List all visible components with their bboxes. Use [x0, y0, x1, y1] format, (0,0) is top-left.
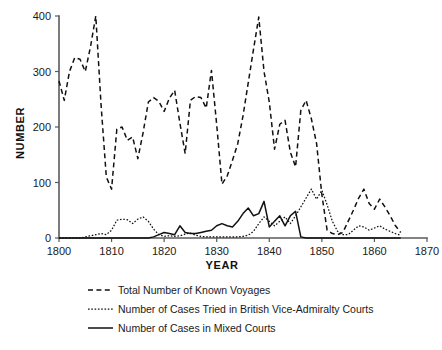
- legend-item: Number of Cases Tried in British Vice-Ad…: [88, 303, 373, 315]
- y-tick-label: 100: [33, 177, 51, 189]
- x-tick-label: 1810: [99, 245, 123, 257]
- chart-legend: Total Number of Known VoyagesNumber of C…: [88, 284, 373, 334]
- legend-label-1: Total Number of Known Voyages: [118, 284, 270, 296]
- y-tick-label: 400: [33, 10, 51, 22]
- y-tick-label: 300: [33, 66, 51, 78]
- x-axis-group: 18001810182018301840185018601870: [47, 238, 439, 257]
- x-tick-label: 1800: [47, 245, 71, 257]
- x-tick-label: 1840: [257, 245, 281, 257]
- legend-label-2: Number of Cases Tried in British Vice-Ad…: [118, 303, 373, 315]
- y-axis-title: NUMBER: [14, 107, 26, 159]
- series-line-2: [59, 189, 401, 238]
- x-tick-label: 1850: [310, 245, 334, 257]
- series-lines-group: [59, 16, 401, 238]
- chart-figure: 0100200300400 18001810182018301840185018…: [0, 0, 442, 350]
- legend-label-3: Number of Cases in Mixed Courts: [118, 322, 276, 334]
- y-tick-label: 200: [33, 121, 51, 133]
- legend-item: Number of Cases in Mixed Courts: [88, 322, 276, 334]
- x-tick-label: 1830: [204, 245, 228, 257]
- y-tick-label: 0: [45, 232, 51, 244]
- line-chart-svg: 0100200300400 18001810182018301840185018…: [0, 0, 442, 350]
- x-axis-ticks: 18001810182018301840185018601870: [47, 238, 439, 257]
- x-tick-label: 1860: [362, 245, 386, 257]
- series-line-1: [59, 16, 401, 235]
- legend-item: Total Number of Known Voyages: [88, 284, 270, 296]
- y-axis-group: 0100200300400: [33, 10, 59, 244]
- x-tick-label: 1820: [152, 245, 176, 257]
- y-axis-ticks: 0100200300400: [33, 10, 59, 244]
- x-tick-label: 1870: [415, 245, 439, 257]
- x-axis-title: YEAR: [206, 259, 239, 271]
